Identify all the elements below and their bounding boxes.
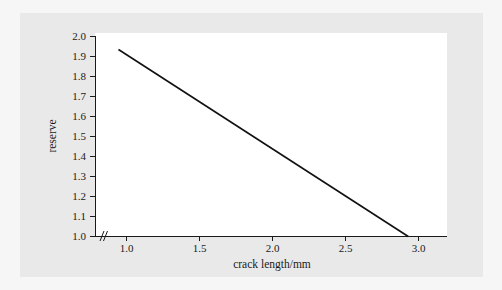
y-tick-label-1.9: 1.9	[72, 50, 86, 62]
y-tick-label-1.6: 1.6	[72, 110, 86, 122]
y-tick-label-1.5: 1.5	[72, 130, 86, 142]
y-axis-title: reserve	[46, 119, 58, 152]
x-tick-label-1.0: 1.0	[120, 242, 134, 254]
y-tick-label-1.0: 1.0	[72, 230, 86, 242]
x-tick-label-2.0: 2.0	[266, 242, 280, 254]
y-tick-label-1.4: 1.4	[72, 150, 86, 162]
x-tick-label-2.5: 2.5	[339, 242, 353, 254]
y-tick-label-1.8: 1.8	[72, 70, 86, 82]
y-tick-label-1.2: 1.2	[72, 190, 86, 202]
y-axis-tick-labels: 2.0 1.9 1.8 1.7 1.6 1.5 1.4 1.3 1.2 1.1 …	[72, 30, 86, 242]
y-tick-label-1.3: 1.3	[72, 170, 86, 182]
y-axis-ticks	[90, 37, 95, 237]
y-tick-label-2.0: 2.0	[72, 30, 86, 42]
y-tick-label-1.1: 1.1	[72, 210, 86, 222]
figure-root: 2.0 1.9 1.8 1.7 1.6 1.5 1.4 1.3 1.2 1.1 …	[0, 0, 502, 290]
x-axis-title: crack length/mm	[233, 258, 311, 271]
chart-svg: 2.0 1.9 1.8 1.7 1.6 1.5 1.4 1.3 1.2 1.1 …	[0, 0, 502, 290]
x-axis-tick-labels: 1.0 1.5 2.0 2.5 3.0	[120, 242, 426, 254]
y-tick-label-1.7: 1.7	[72, 90, 86, 102]
x-tick-label-1.5: 1.5	[193, 242, 207, 254]
x-tick-label-3.0: 3.0	[412, 242, 426, 254]
data-series-reserve	[118, 50, 408, 237]
